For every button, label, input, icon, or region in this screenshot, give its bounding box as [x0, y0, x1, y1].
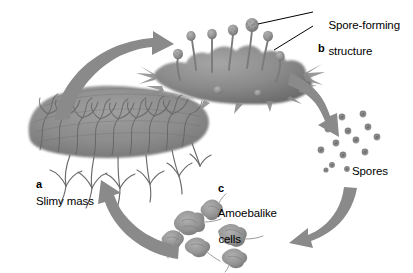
label-slimy-mass: Slimy mass: [36, 195, 94, 208]
label-key-b: b: [318, 42, 325, 54]
label-amoebalike-cells-line2: cells: [218, 233, 241, 245]
label-spore-forming-structure-line1: Spore-forming: [328, 19, 400, 31]
label-spore-forming-structure: Spore-forming structure: [316, 6, 400, 71]
label-spore-forming-structure-line2: structure: [328, 45, 372, 57]
label-key-c: c: [218, 182, 224, 194]
label-key-a: a: [36, 178, 42, 190]
label-amoebalike-cells-line1: Amoebalike: [218, 207, 277, 219]
label-spores: Spores: [352, 165, 388, 178]
label-amoebalike-cells: Amoebalike cells: [206, 194, 277, 259]
slime-mold-life-cycle-figure: Spore-forming structure b Spores c Amoeb…: [0, 0, 413, 273]
leader-line: [258, 12, 313, 50]
